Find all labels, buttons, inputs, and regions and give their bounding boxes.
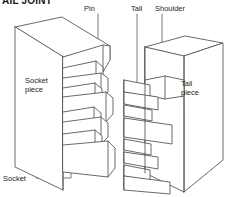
label-tail: Tail xyxy=(131,4,142,13)
socket-piece-pins xyxy=(63,45,115,177)
label-tail-piece-line2: piece xyxy=(181,88,199,97)
figure-title: AIL JOINT xyxy=(2,0,52,6)
label-shoulder: Shoulder xyxy=(155,4,185,13)
dovetail-joint-figure: AIL JOINT Pin Tail Shoulder Socket piece… xyxy=(0,0,228,197)
label-pin: Pin xyxy=(84,4,95,13)
label-socket-piece-line2: piece xyxy=(25,85,48,94)
label-tail-piece-line1: Tail xyxy=(181,79,199,88)
label-socket-piece-line1: Socket xyxy=(25,76,48,85)
label-tail-piece: Tail piece xyxy=(181,79,199,97)
dovetail-joint-illustration xyxy=(0,0,228,197)
label-socket-piece: Socket piece xyxy=(25,76,48,94)
label-socket: Socket xyxy=(3,174,26,183)
